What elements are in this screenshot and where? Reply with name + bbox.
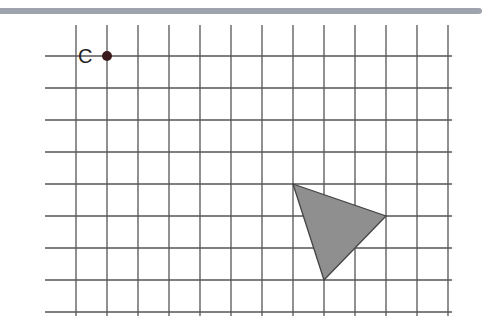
point-c-dot bbox=[102, 51, 112, 61]
point-c-label: C bbox=[78, 45, 92, 67]
grid-lines bbox=[45, 25, 452, 316]
shaded-triangle bbox=[293, 184, 386, 280]
grid-diagram: C bbox=[0, 0, 486, 334]
